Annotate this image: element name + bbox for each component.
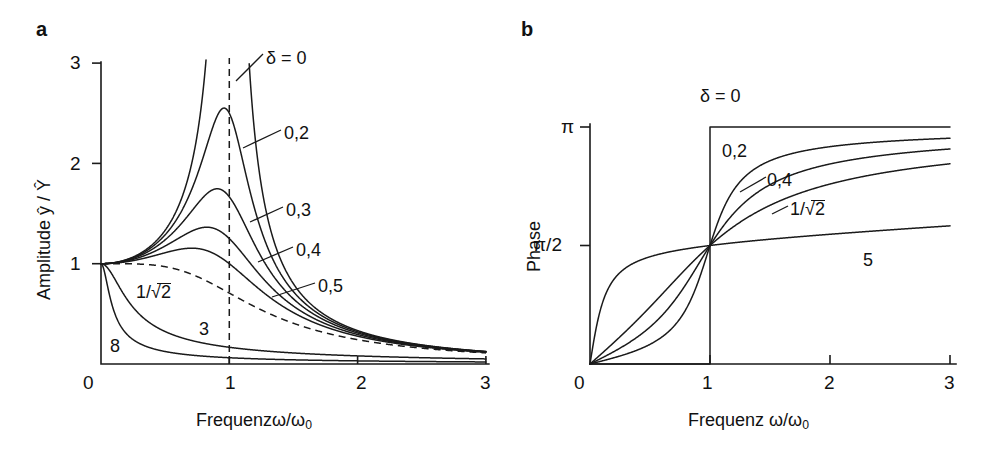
panel-a-leader-3 — [258, 247, 293, 262]
panel-b-sqrt-icon: √2 — [805, 199, 825, 220]
panel-b-ytick-pi: π — [561, 116, 574, 138]
panel-a-leader-1 — [243, 130, 281, 148]
panel-a-label-0-5: 0,5 — [318, 276, 343, 297]
panel-b-label-0-2: 0,2 — [722, 141, 747, 162]
panel-b-xtick-0: 0 — [574, 372, 585, 394]
panel-b-label-one-over-sqrt2-radicand: 2 — [815, 199, 825, 219]
panel-b-xtick-2: 2 — [824, 372, 835, 394]
panel-a-curve-3 — [101, 264, 486, 359]
panel-a-label-0-2: 0,2 — [284, 123, 309, 144]
panel-a-ytick-3: 3 — [70, 52, 81, 74]
panel-a-y-axis-title: Amplitude ŷ / Ŷ — [34, 179, 55, 300]
panel-b-xtick-1: 1 — [702, 372, 713, 394]
panel-a-xtick-3: 3 — [480, 372, 491, 394]
panel-b-x-axis-title-text: Frequenz ω/ω — [688, 410, 802, 430]
panel-a-label-one-over-sqrt2-prefix: 1/ — [136, 282, 151, 302]
panel-a-label-delta-0: δ = 0 — [266, 48, 307, 69]
panel-b-curve-12 — [590, 164, 950, 364]
panel-a-x-axis-title-text: Frequenzω/ω — [196, 410, 305, 430]
panel-b-plot — [580, 124, 956, 364]
panel-b-y-axis-title-text: Phase — [524, 221, 544, 272]
panel-a-sqrt-bar — [157, 283, 171, 285]
panel-a-label-one-over-sqrt2: 1/√2 — [136, 282, 171, 303]
panel-b-xtick-3: 3 — [944, 372, 955, 394]
panel-b-label-one-over-sqrt2: 1/√2 — [790, 199, 825, 220]
figure-canvas — [0, 0, 989, 458]
panel-a-label-3: 3 — [199, 319, 209, 340]
panel-b-curve-0 — [590, 127, 950, 364]
panel-a-curve-12 — [101, 264, 486, 353]
panel-b-sqrt-bar — [811, 200, 825, 202]
panel-a-x-axis-title: Frequenzω/ω0 — [196, 410, 312, 432]
panel-b-label-5: 5 — [863, 250, 873, 271]
panel-b-leader-1 — [772, 206, 788, 214]
panel-a-label-0-3: 0,3 — [286, 200, 311, 221]
panel-b-label-0-4: 0,4 — [767, 170, 792, 191]
panel-a-label-8: 8 — [110, 336, 120, 357]
panel-b-curve-5 — [590, 226, 950, 364]
panel-a-ytick-1: 1 — [70, 253, 81, 275]
panel-b-x-axis-title: Frequenz ω/ω0 — [688, 410, 809, 432]
panel-b-x-axis-title-sub: 0 — [802, 418, 809, 432]
panel-a-label-one-over-sqrt2-radicand: 2 — [161, 282, 171, 302]
panel-b-y-axis-title: Phase — [524, 221, 545, 272]
panel-a-xtick-1: 1 — [225, 372, 236, 394]
panel-a-y-axis-title-text: Amplitude ŷ / Ŷ — [34, 179, 54, 300]
panel-a-xtick-2: 2 — [356, 372, 367, 394]
panel-b-label-delta-0: δ = 0 — [700, 86, 741, 107]
panel-a-xtick-0: 0 — [83, 372, 94, 394]
panel-b-label-one-over-sqrt2-prefix: 1/ — [790, 199, 805, 219]
figure-root: a b 0 1 2 3 1 2 3 Amplitude ŷ / Ŷ Freque… — [0, 0, 989, 458]
panel-a-sqrt-icon: √2 — [151, 282, 171, 303]
panel-a-label-0-4: 0,4 — [296, 240, 321, 261]
panel-a-ytick-2: 2 — [70, 153, 81, 175]
panel-a-x-axis-title-sub: 0 — [305, 418, 312, 432]
panel-a-curve-02 — [101, 108, 486, 352]
